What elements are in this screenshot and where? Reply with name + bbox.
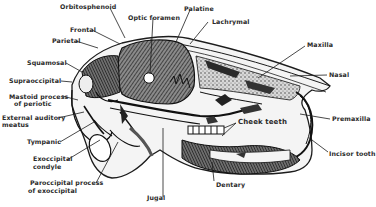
optic-foramen-hole	[144, 73, 154, 83]
label-exoccipital: Exoccipital	[33, 155, 73, 162]
label-parietal: Parietal	[52, 37, 80, 44]
label-cheek-teeth: Cheek teeth	[238, 119, 287, 126]
label-supraoccipital: Supraoccipital	[9, 77, 61, 84]
label-frontal: Frontal	[70, 26, 96, 33]
label-paroccipital-process: Paroccipital process	[30, 179, 103, 186]
label-optic-foramen: Optic foramen	[128, 14, 180, 21]
label-maxilla: Maxilla	[307, 41, 333, 48]
label-of-exoccipital: of exoccipital	[28, 187, 77, 194]
label-condyle: condyle	[33, 163, 61, 170]
label-incisor-tooth: Incisor tooth	[329, 150, 376, 157]
label-nasal: Nasal	[329, 71, 349, 78]
label-jugal: Jugal	[147, 194, 165, 201]
label-palatine: Palatine	[184, 5, 214, 12]
orbit-region	[118, 40, 195, 104]
label-premaxilla: Premaxilla	[332, 115, 371, 122]
label-tympanic: Tympanic	[27, 138, 61, 145]
label-orbitosphenoid: Orbitosphenoid	[60, 3, 116, 10]
label-dentary: Dentary	[216, 181, 245, 188]
label-of-periotic: of periotic	[14, 100, 52, 107]
label-meatus: meatus	[2, 121, 29, 128]
label-lachrymal: Lachrymal	[212, 18, 250, 25]
label-squamosal: Squamosal	[27, 59, 67, 66]
